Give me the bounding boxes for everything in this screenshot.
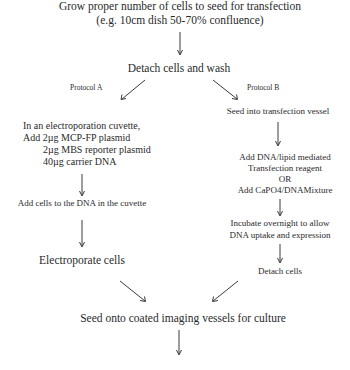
- a-step1-line1: In an electroporation cuvette,: [23, 120, 140, 132]
- b-step4-node: Detach cells: [258, 266, 302, 276]
- start-node-line1: Grow proper number of cells to seed for …: [59, 0, 301, 13]
- a-step1-line4: 40µg carrier DNA: [43, 156, 117, 168]
- b-step2-line3: OR: [279, 174, 292, 184]
- arrow-a1-to-a2: [80, 174, 85, 196]
- arrow-b1-to-b2: [276, 122, 281, 146]
- protocol-b-label: Protocol B: [247, 84, 279, 93]
- arrow-end-to-next: [177, 330, 182, 355]
- arrow-detach-to-protocol-b: [213, 80, 238, 100]
- arrow-detach-to-protocol-a: [121, 80, 145, 100]
- detach-wash-node: Detach cells and wash: [128, 62, 231, 75]
- b-step2-line1: Add DNA/lipid mediated: [239, 152, 331, 162]
- b-step2-line2: Transfection reagent: [248, 163, 322, 173]
- b-step3-line2: DNA uptake and expression: [229, 230, 330, 240]
- arrow-b2-to-b3: [278, 199, 283, 216]
- arrow-b4-to-end: [213, 281, 239, 302]
- b-step1-node: Seed into transfection vessel: [227, 106, 330, 116]
- a-step2-node: Add cells to the DNA in the cuvette: [18, 198, 147, 208]
- a-step3-node: Electroporate cells: [39, 254, 125, 267]
- arrow-start-to-detach: [178, 32, 183, 55]
- a-step1-line3: 2µg MBS reporter plasmid: [43, 144, 151, 156]
- arrow-a2-to-a3: [80, 220, 85, 247]
- start-node-line2: (e.g. 10cm dish 50-70% confluence): [96, 14, 263, 27]
- arrow-b3-to-b4: [278, 244, 283, 263]
- arrow-a3-to-end: [120, 281, 146, 302]
- a-step1-line2: Add 2µg MCP-FP plasmid: [23, 132, 130, 144]
- b-step3-line1: Incubate overnight to allow: [230, 218, 329, 228]
- end-node: Seed onto coated imaging vessels for cul…: [80, 312, 286, 325]
- protocol-a-label: Protocol A: [70, 84, 102, 93]
- b-step2-line4: Add CaPO4/DNAMixture: [238, 185, 333, 195]
